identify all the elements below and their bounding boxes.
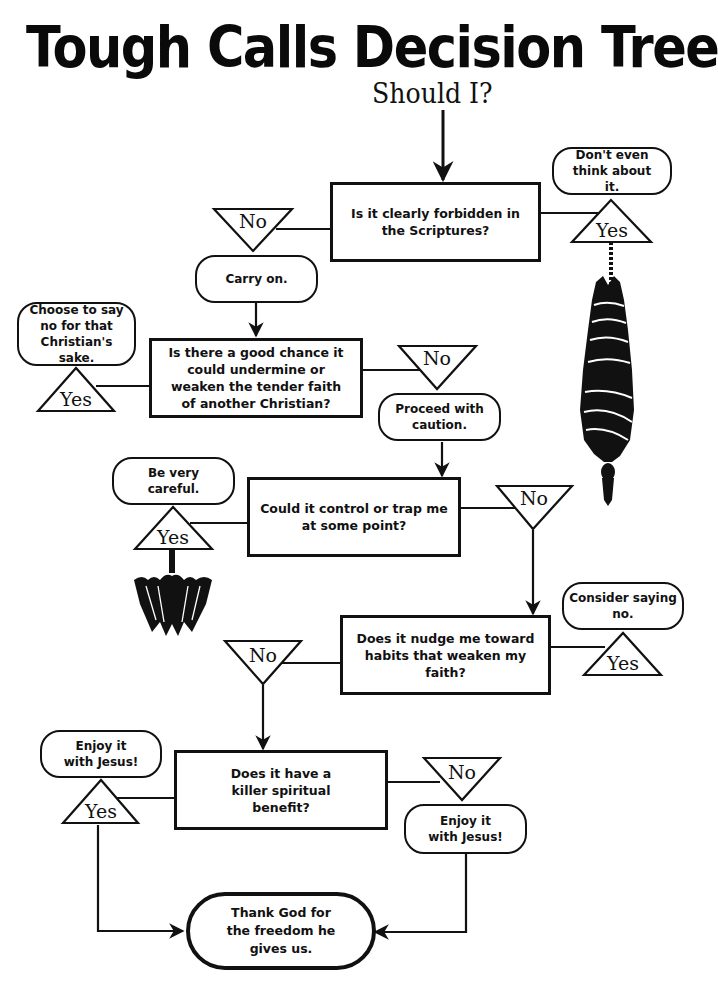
no-label-q1: No [233,211,273,231]
answer-say-no-christian: Choose to say no for that Christian's sa… [17,302,136,366]
yes-label-q1: Yes [592,220,632,240]
bat-illustration [134,549,212,636]
no-label-q3: No [514,488,554,508]
answer-be-careful: Be very careful. [112,457,235,505]
answer-enjoy-yes: Enjoy it with Jesus! [40,730,162,778]
question-box-habits: Does it nudge me toward habits that weak… [340,615,551,695]
question-box-control-trap: Could it control or trap me at some poin… [247,477,461,557]
yes-label-q4: Yes [603,653,643,673]
question-text: Is it clearly forbidden in the Scripture… [341,205,530,239]
no-label-q4: No [243,645,283,665]
yes-label-q2: Yes [56,389,96,409]
yes-label-q5: Yes [81,801,121,821]
no-label-q5: No [442,762,482,782]
question-box-tender-faith: Is there a good chance it could undermin… [149,338,363,418]
question-text: Does it have a killer spiritual benefit? [217,765,345,816]
answer-enjoy-no: Enjoy it with Jesus! [404,804,527,854]
question-text: Is there a good chance it could undermin… [162,344,350,412]
hanging-figure-illustration [580,276,634,506]
question-box-spiritual-benefit: Does it have a killer spiritual benefit? [174,750,388,830]
answer-proceed-caution: Proceed with caution. [378,393,501,441]
no-label-q2: No [417,348,457,368]
answer-consider-no: Consider saying no. [562,582,684,630]
question-box-forbidden: Is it clearly forbidden in the Scripture… [330,182,541,262]
answer-dont-think: Don't even think about it. [552,147,672,195]
answer-carry-on: Carry on. [195,255,318,303]
question-text: Could it control or trap me at some poin… [258,500,450,534]
question-text: Does it nudge me toward habits that weak… [351,630,540,681]
yes-label-q3: Yes [153,527,193,547]
final-outcome: Thank God for the freedom he gives us. [186,892,376,970]
